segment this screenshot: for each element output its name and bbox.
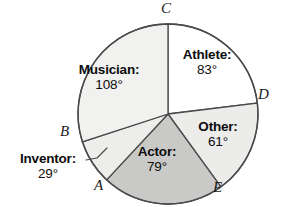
pie-chart-figure: Athlete: 83° Other: 61° Actor: 79° Inven… [0,0,281,207]
pie-slice-athlete [168,24,257,114]
pie-chart-graphic [0,0,281,207]
pie-slices [78,24,258,204]
